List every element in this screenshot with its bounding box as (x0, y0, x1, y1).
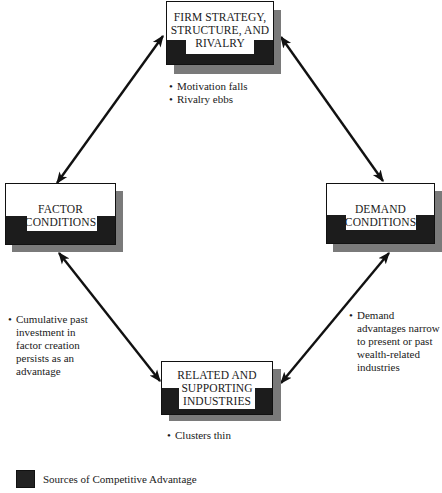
related-notes: Clusters thin (167, 429, 267, 442)
note-item: Cumulative past investment in factor cre… (8, 313, 100, 378)
node-related-supporting: RELATED AND SUPPORTING INDUSTRIES (161, 361, 281, 422)
node-label: RELATED AND SUPPORTING INDUSTRIES (161, 369, 273, 408)
note-item: Clusters thin (167, 429, 267, 442)
factor-notes: Cumulative past investment in factor cre… (8, 313, 100, 378)
legend-label: Sources of Competitive Advantage (43, 473, 197, 485)
node-firm-strategy: FIRM STRATEGY, STRUCTURE, AND RIVALRY (166, 1, 281, 74)
legend-swatch (16, 470, 35, 488)
note-item: Rivalry ebbs (169, 93, 279, 106)
node-label: FACTOR CONDITIONS (5, 203, 116, 229)
legend: Sources of Competitive Advantage (16, 470, 197, 488)
node-factor-conditions: FACTOR CONDITIONS (5, 183, 123, 252)
demand-notes: Demand advantages narrow to present or p… (349, 309, 442, 374)
node-label: DEMAND CONDITIONS (326, 203, 435, 229)
note-item: Motivation falls (169, 80, 279, 93)
arrow-firm-demand (281, 37, 383, 181)
node-demand-conditions: DEMAND CONDITIONS (326, 183, 442, 252)
arrow-firm-factor (57, 36, 163, 183)
firm-notes: Motivation falls Rivalry ebbs (169, 80, 279, 106)
node-label: FIRM STRATEGY, STRUCTURE, AND RIVALRY (166, 11, 274, 50)
note-item: Demand advantages narrow to present or p… (349, 309, 442, 374)
